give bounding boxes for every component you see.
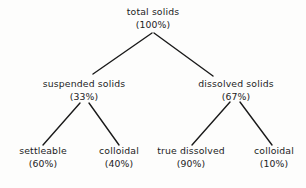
- node-settleable: settleable (60%): [19, 145, 67, 170]
- node-colloidal-dissolved-label: colloidal: [254, 145, 294, 157]
- node-colloidal-suspended-label: colloidal: [99, 145, 139, 157]
- node-colloidal-suspended: colloidal (40%): [99, 145, 139, 170]
- node-colloidal-dissolved: colloidal (10%): [254, 145, 294, 170]
- node-suspended-solids-label: suspended solids: [43, 78, 125, 90]
- edge-suspended-to-colloidal: [89, 103, 119, 145]
- node-suspended-solids: suspended solids (33%): [43, 78, 125, 103]
- node-colloidal-suspended-value: (40%): [99, 158, 139, 170]
- node-total-solids-value: (100%): [127, 19, 179, 31]
- node-suspended-solids-value: (33%): [43, 91, 125, 103]
- node-total-solids-label: total solids: [127, 6, 179, 18]
- node-true-dissolved-value: (90%): [157, 158, 225, 170]
- node-settleable-label: settleable: [19, 145, 67, 157]
- node-dissolved-solids: dissolved solids (67%): [198, 78, 273, 103]
- solids-classification-diagram: total solids (100%) suspended solids (33…: [0, 0, 306, 188]
- node-true-dissolved-label: true dissolved: [157, 145, 225, 157]
- edge-dissolved-to-colloidal: [240, 102, 272, 145]
- node-dissolved-solids-value: (67%): [198, 91, 273, 103]
- node-colloidal-dissolved-value: (10%): [254, 158, 294, 170]
- node-settleable-value: (60%): [19, 158, 67, 170]
- edge-suspended-to-settleable: [43, 103, 80, 145]
- edge-root-to-dissolved: [154, 33, 213, 76]
- node-true-dissolved: true dissolved (90%): [157, 145, 225, 170]
- node-total-solids: total solids (100%): [127, 6, 179, 31]
- node-dissolved-solids-label: dissolved solids: [198, 78, 273, 90]
- edge-dissolved-to-true-dissolved: [192, 102, 230, 145]
- edge-root-to-suspended: [93, 33, 152, 74]
